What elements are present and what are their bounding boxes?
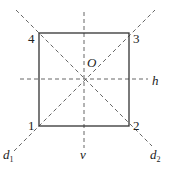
vertex-label-3: 3 xyxy=(133,32,140,45)
center-label-o: O xyxy=(87,56,96,69)
axis-label-d2: d2 xyxy=(150,148,161,164)
vertex-label-4: 4 xyxy=(28,32,35,45)
d1-subscript: 1 xyxy=(10,155,14,164)
axis-label-v: v xyxy=(80,148,86,161)
axis-label-h: h xyxy=(152,74,159,87)
axis-label-d1: d1 xyxy=(3,148,14,164)
vertex-label-2: 2 xyxy=(133,119,140,132)
vertex-label-1: 1 xyxy=(28,119,35,132)
diagram-canvas xyxy=(0,0,171,170)
d2-subscript: 2 xyxy=(157,155,161,164)
square-symmetry-diagram: 4 3 1 2 O h v d1 d2 xyxy=(0,0,171,170)
